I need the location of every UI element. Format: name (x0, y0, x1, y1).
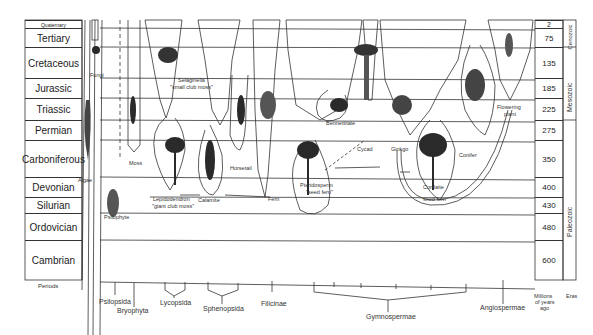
label-cycad: Cycad (357, 146, 373, 152)
period-ordovician: Ordovician (25, 213, 82, 240)
group-psilopsida: Psilopsida (99, 298, 131, 305)
myr-devonian: 400 (535, 177, 563, 197)
period-triassic: Triassic (25, 98, 82, 120)
evolution-diagram-lines (0, 0, 593, 335)
label-selaginella-sub: "small club moss" (170, 84, 213, 90)
myr-carboniferous: 350 (535, 140, 563, 177)
label-pteridosperm: Pteridosperm (300, 182, 333, 188)
label-calamite: Calamite (198, 197, 220, 203)
period-cambrian: Cambrian (25, 240, 82, 280)
label-lepidodendron-sub: "giant club moss" (152, 203, 194, 209)
period-permian: Permian (25, 120, 82, 140)
label-conifer: Conifer (459, 152, 477, 158)
label-fungi: Fungi (90, 72, 104, 78)
label-cordaite: Cordaite (423, 184, 444, 190)
periods-axis-label: Periods (38, 283, 58, 289)
period-tertiary: Tertiary (25, 28, 82, 47)
label-pteridosperm-sub: "seed fern" (306, 189, 333, 195)
period-quaternary: Quaternary (25, 20, 82, 28)
label-psilophyte: Psilophyte (104, 214, 129, 220)
myr-permian: 275 (535, 120, 563, 140)
myr-cretaceous: 135 (535, 47, 563, 78)
group-angiospermae: Angiospermae (480, 304, 525, 311)
period-carboniferous: Carboniferous (25, 140, 82, 177)
label-fern: Fern (268, 196, 279, 202)
period-jurassic: Jurassic (25, 78, 82, 98)
myr-tertiary: 75 (535, 28, 563, 47)
label-horsetail: Horsetail (230, 165, 252, 171)
group-gymnospermae: Gymnospermae (366, 313, 416, 320)
myr-triassic: 225 (535, 98, 563, 120)
label-lepidodendron: Lepidodendron (153, 196, 190, 202)
group-lycopsida: Lycopsida (160, 299, 191, 306)
myr-jurassic: 185 (535, 78, 563, 98)
myr-ordovician: 480 (535, 213, 563, 240)
period-cretaceous: Cretaceous (25, 47, 82, 78)
myr-quaternary: 2 (535, 20, 563, 28)
myr-cambrian: 600 (535, 240, 563, 280)
label-bennettitale: Bennettitale (326, 120, 355, 126)
group-sphenopsida: Sphenopsida (203, 305, 244, 312)
label-flowering-sub: plant (504, 111, 516, 117)
label-selaginella: Selaginella (178, 77, 205, 83)
label-algae: Algae (78, 177, 92, 183)
group-filicinae: Filicinae (261, 300, 287, 307)
label-flowering: Flowering (497, 104, 521, 110)
period-silurian: Silurian (25, 197, 82, 213)
group-bryophyta: Bryophyta (117, 307, 149, 314)
label-moss: Moss (129, 160, 142, 166)
era-paleozoic: Paleozoic (566, 160, 573, 237)
eras-axis-label: Eras (566, 293, 577, 299)
era-mesozoic: Mesozoic (566, 55, 573, 112)
myr-axis-label-3: ago (540, 305, 549, 311)
label-seed-fern: seed fern (423, 196, 446, 202)
era-cenozoic: Cenozoic (567, 13, 573, 50)
period-devonian: Devonian (25, 177, 82, 197)
myr-silurian: 430 (535, 197, 563, 213)
label-ginkgo: Ginkgo (391, 146, 408, 152)
